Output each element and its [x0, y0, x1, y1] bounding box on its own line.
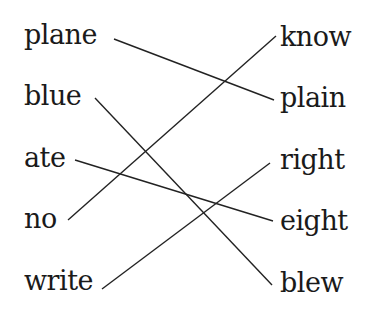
right-word-right: right [280, 145, 345, 175]
connector-no-know [68, 36, 276, 220]
right-word-plain: plain [280, 83, 346, 113]
connector-plane-plain [114, 39, 274, 100]
connector-ate-eight [75, 160, 273, 221]
left-word-blue: blue [24, 81, 81, 111]
homophone-matching-diagram: plane blue ate no write know plain right… [0, 0, 368, 314]
left-word-ate: ate [24, 143, 65, 173]
right-word-know: know [280, 22, 351, 52]
right-word-eight: eight [280, 206, 348, 236]
left-word-plane: plane [24, 20, 97, 50]
connector-write-right [102, 163, 270, 289]
left-word-no: no [24, 204, 57, 234]
left-word-write: write [24, 266, 93, 296]
connector-blue-blew [95, 98, 272, 285]
right-word-blew: blew [280, 268, 343, 298]
